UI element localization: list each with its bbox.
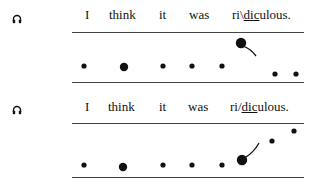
contour-row-fall: I think it was ri\diculous. [0,0,318,92]
bottom-rule [72,82,304,83]
pitch-contour [0,0,318,92]
pitch-contour [0,90,318,187]
bottom-rule [72,177,304,178]
contour-row-rise: I think it was ri/diculous. [0,90,318,187]
